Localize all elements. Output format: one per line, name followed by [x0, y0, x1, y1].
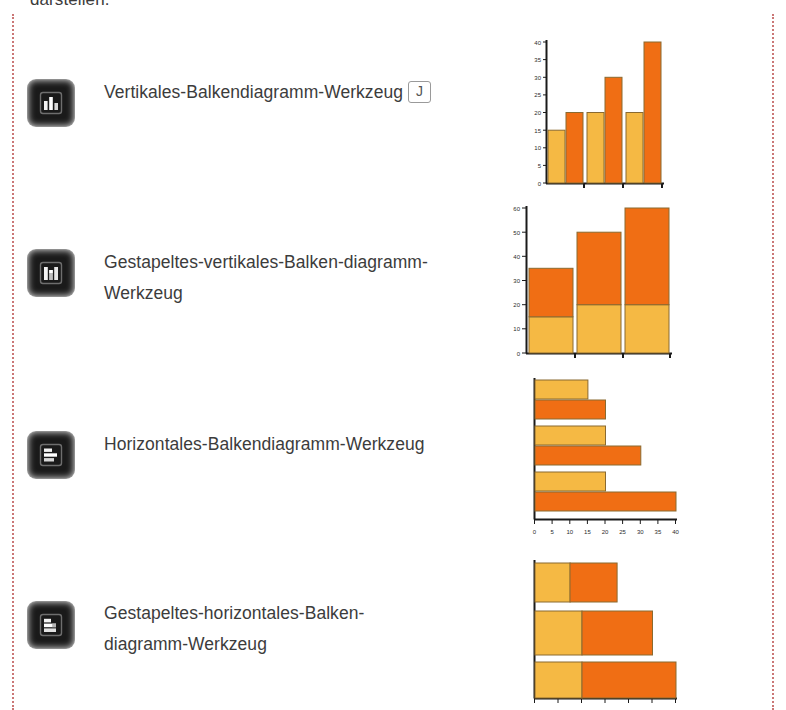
x-tick-5: 5 — [550, 529, 554, 535]
stacked-vertical-bar-chart-icon-glyph — [37, 259, 65, 287]
vertical-bar-chart-icon-glyph — [37, 89, 65, 117]
x-tick-20: 20 — [602, 529, 609, 535]
x-tick-40: 40 — [672, 529, 679, 535]
y-tick-30: 30 — [534, 75, 541, 81]
bar-g2-s1 — [587, 113, 604, 184]
tool-label-text: Vertikales-Balkendiagramm-Werkzeug — [104, 82, 403, 102]
cut-off-paragraph-tail: darstellen. — [30, 0, 110, 10]
hstack-b2-s2 — [582, 611, 653, 655]
x-tick-0: 0 — [533, 529, 537, 535]
x-tick-25: 25 — [619, 529, 626, 535]
bar-g3-s1 — [626, 113, 643, 184]
hbar-g2-s2 — [535, 446, 641, 465]
bar-g1-s2 — [566, 113, 583, 184]
tool-label-horizontal-bar-chart: Horizontales-Balkendiagramm-Werkzeug — [104, 429, 434, 460]
y-tick-40: 40 — [513, 254, 520, 260]
x-tick-35: 35 — [655, 529, 662, 535]
stack-b2-s1 — [577, 305, 621, 353]
chart-horizontal-grouped: 0 5 10 15 20 25 30 35 40 — [505, 374, 695, 542]
y-tick-25: 25 — [534, 92, 541, 98]
chart-vertical-stacked: 60 50 40 30 20 10 0 — [490, 196, 690, 366]
stack-b1-s2 — [529, 268, 573, 317]
bar-g3-s2 — [644, 42, 661, 183]
y-tick-10: 10 — [513, 326, 520, 332]
y-tick-10: 10 — [534, 145, 541, 151]
y-tick-50: 50 — [513, 230, 520, 236]
vertical-bar-chart-icon[interactable] — [28, 80, 74, 126]
tool-shortcut-key: J — [408, 81, 431, 103]
tool-label-vertical-bar-chart: Vertikales-Balkendiagramm-WerkzeugJ — [104, 77, 434, 108]
y-tick-0: 0 — [538, 181, 542, 187]
hbar-g3-s1 — [535, 472, 606, 491]
stack-b2-s2 — [577, 232, 621, 305]
stack-b1-s1 — [529, 317, 573, 353]
y-tick-5: 5 — [538, 163, 542, 169]
chart-vertical-grouped: 40 35 30 25 20 15 10 5 0 — [512, 20, 692, 192]
x-tick-10: 10 — [566, 529, 573, 535]
stack-b3-s1 — [625, 305, 669, 353]
tool-label-text: Gestapeltes-vertikales-Balken-diagramm-W… — [104, 252, 428, 303]
stacked-horizontal-bar-chart-icon[interactable] — [28, 602, 74, 648]
hstack-b1-s2 — [570, 563, 617, 602]
y-tick-20: 20 — [513, 302, 520, 308]
tool-row-vertical-bar-chart: Vertikales-Balkendiagramm-WerkzeugJ 40 3… — [0, 12, 786, 192]
bar-g1-s1 — [548, 130, 565, 183]
y-tick-60: 60 — [513, 206, 520, 212]
stacked-vertical-bar-chart-icon[interactable] — [28, 250, 74, 296]
tool-label-stacked-vertical-bar-chart: Gestapeltes-vertikales-Balken-diagramm-W… — [104, 247, 434, 309]
y-tick-30: 30 — [513, 278, 520, 284]
horizontal-bar-chart-icon[interactable] — [28, 432, 74, 478]
horizontal-bar-chart-icon-glyph — [37, 441, 65, 469]
tool-row-stacked-horizontal-bar-chart: Gestapeltes-horizontales-Balken-diagramm… — [0, 550, 786, 710]
stack-b3-s2 — [625, 208, 669, 305]
x-tick-30: 30 — [637, 529, 644, 535]
y-tick-15: 15 — [534, 128, 541, 134]
y-tick-20: 20 — [534, 110, 541, 116]
y-tick-40: 40 — [534, 40, 541, 46]
hstack-b1-s1 — [535, 563, 570, 602]
tool-label-text: Horizontales-Balkendiagramm-Werkzeug — [104, 434, 425, 454]
stacked-horizontal-bar-chart-icon-glyph — [37, 611, 65, 639]
help-page: darstellen. Vertikales-Balkendiagramm-We… — [0, 0, 786, 710]
tool-row-stacked-vertical-bar-chart: Gestapeltes-vertikales-Balken-diagramm-W… — [0, 192, 786, 372]
y-tick-35: 35 — [534, 57, 541, 63]
hbar-g2-s1 — [535, 426, 606, 445]
chart-horizontal-stacked — [505, 558, 695, 708]
hbar-g1-s1 — [535, 380, 588, 399]
tool-label-text: Gestapeltes-horizontales-Balken-diagramm… — [104, 603, 364, 654]
hbar-g1-s2 — [535, 400, 606, 419]
tool-label-stacked-horizontal-bar-chart: Gestapeltes-horizontales-Balken-diagramm… — [104, 598, 434, 660]
x-tick-15: 15 — [584, 529, 591, 535]
tool-row-horizontal-bar-chart: Horizontales-Balkendiagramm-Werkzeug — [0, 372, 786, 550]
hstack-b3-s1 — [535, 662, 582, 698]
y-tick-0: 0 — [517, 351, 521, 357]
hbar-g3-s2 — [535, 492, 676, 511]
hstack-b2-s1 — [535, 611, 582, 655]
hstack-b3-s2 — [582, 662, 676, 698]
bar-g2-s2 — [605, 77, 622, 183]
